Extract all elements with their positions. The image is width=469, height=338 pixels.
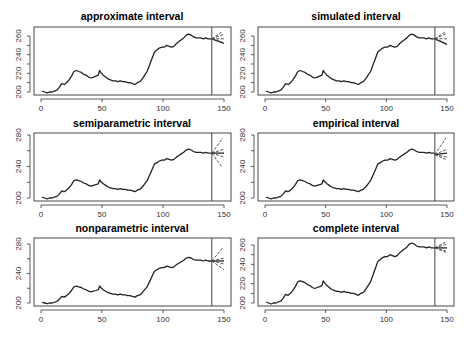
x-tick-label: 50 [321,210,330,219]
x-tick-label: 0 [263,315,268,324]
y-tick-label: 240 [14,47,23,61]
observed-series-line [266,34,435,93]
y-tick-label: 220 [14,66,23,80]
x-tick-label: 150 [217,210,231,219]
y-tick-label: 200 [14,191,23,205]
figure: approximate interval 0501001502002202402… [0,0,469,338]
y-tick-label: 220 [238,66,247,80]
x-tick-label: 0 [39,104,44,113]
plot-frame [258,238,454,306]
y-tick-label: 240 [14,266,23,280]
panel-title: semiparametric interval [73,117,191,129]
panel-empirical-interval: empirical interval 050100150200240280 [238,117,454,219]
x-tick-label: 100 [156,315,170,324]
observed-series-line [42,34,212,93]
y-tick-label: 240 [238,257,247,271]
x-tick-label: 50 [98,104,107,113]
y-tick-label: 280 [238,128,247,142]
y-tick-label: 200 [14,296,23,310]
x-tick-label: 150 [440,315,454,324]
observed-series-line [266,149,435,199]
x-tick-label: 150 [440,210,454,219]
panel-complete-interval: complete interval 050100150200220240260 [238,222,454,324]
x-tick-label: 100 [380,210,394,219]
panel-approximate-interval: approximate interval 0501001502002202402… [14,10,231,113]
x-tick-label: 50 [321,104,330,113]
x-tick-label: 150 [440,104,454,113]
panel-title: nonparametric interval [75,222,188,234]
x-tick-label: 50 [98,315,107,324]
y-tick-label: 240 [238,47,247,61]
x-tick-label: 100 [380,104,394,113]
y-tick-label: 280 [14,237,23,251]
panel-title: empirical interval [313,117,399,129]
panel-title: complete interval [313,222,399,234]
y-tick-label: 260 [238,238,247,252]
panel-simulated-interval: simulated interval 050100150200220240260 [238,10,454,113]
observed-series-line [42,257,212,303]
observed-series-line [266,243,435,304]
y-tick-label: 200 [238,296,247,310]
x-tick-label: 100 [156,210,170,219]
panel-nonparametric-interval: nonparametric interval 05010015020024028… [14,222,231,324]
x-tick-label: 0 [263,104,268,113]
y-tick-label: 260 [238,29,247,43]
panel-semiparametric-interval: semiparametric interval 0501001502002402… [14,117,231,219]
y-tick-label: 240 [14,159,23,173]
y-tick-label: 200 [14,85,23,99]
y-tick-label: 200 [238,191,247,205]
x-tick-label: 100 [380,315,394,324]
panel-title: approximate interval [81,10,184,22]
x-tick-label: 50 [321,315,330,324]
x-tick-label: 0 [263,210,268,219]
y-tick-label: 220 [238,276,247,290]
y-tick-label: 240 [238,159,247,173]
x-tick-label: 150 [217,315,231,324]
y-tick-label: 200 [238,85,247,99]
y-tick-label: 280 [14,128,23,142]
x-tick-label: 50 [98,210,107,219]
x-tick-label: 0 [39,315,44,324]
x-tick-label: 100 [156,104,170,113]
y-tick-label: 260 [14,29,23,43]
x-tick-label: 150 [217,104,231,113]
x-tick-label: 0 [39,210,44,219]
observed-series-line [42,149,212,199]
panel-title: simulated interval [311,10,400,22]
